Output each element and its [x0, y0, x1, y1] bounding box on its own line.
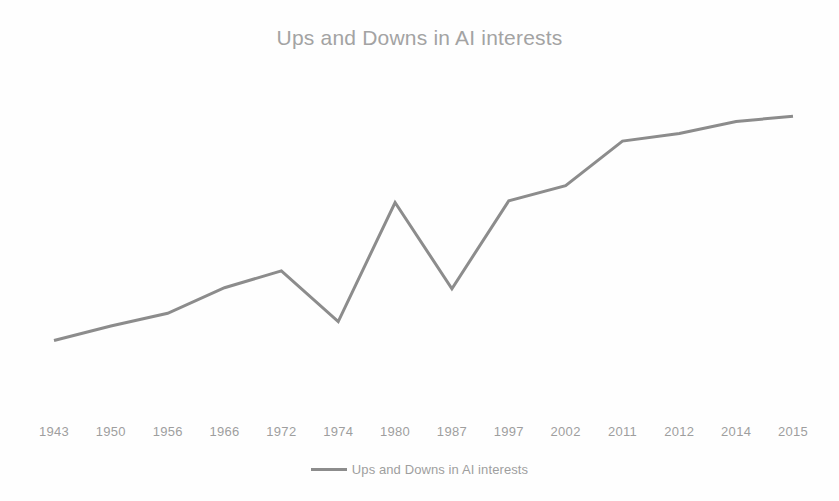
chart-container: Ups and Downs in AI interests 1943195019… — [0, 0, 839, 501]
x-tick-label: 2011 — [592, 424, 652, 439]
x-tick-label: 1956 — [138, 424, 198, 439]
legend-line-swatch-icon — [311, 468, 347, 471]
x-tick-label: 1987 — [422, 424, 482, 439]
series-line-ups-and-downs — [54, 116, 793, 340]
x-tick-label: 1974 — [308, 424, 368, 439]
x-tick-label: 1980 — [365, 424, 425, 439]
legend-item-ups-and-downs: Ups and Downs in AI interests — [311, 462, 528, 477]
x-tick-label: 2012 — [649, 424, 709, 439]
x-tick-label: 2014 — [706, 424, 766, 439]
plot-area — [0, 70, 839, 415]
chart-title: Ups and Downs in AI interests — [0, 26, 839, 50]
chart-legend: Ups and Downs in AI interests — [0, 462, 839, 477]
x-tick-label: 1950 — [81, 424, 141, 439]
x-axis-tick-labels: 1943195019561966197219741980198719972002… — [0, 424, 839, 446]
x-tick-label: 1943 — [24, 424, 84, 439]
line-chart-svg — [0, 70, 839, 415]
legend-item-label: Ups and Downs in AI interests — [352, 462, 528, 477]
x-tick-label: 1972 — [251, 424, 311, 439]
x-tick-label: 2002 — [536, 424, 596, 439]
x-tick-label: 1966 — [195, 424, 255, 439]
x-tick-label: 1997 — [479, 424, 539, 439]
x-tick-label: 2015 — [763, 424, 823, 439]
